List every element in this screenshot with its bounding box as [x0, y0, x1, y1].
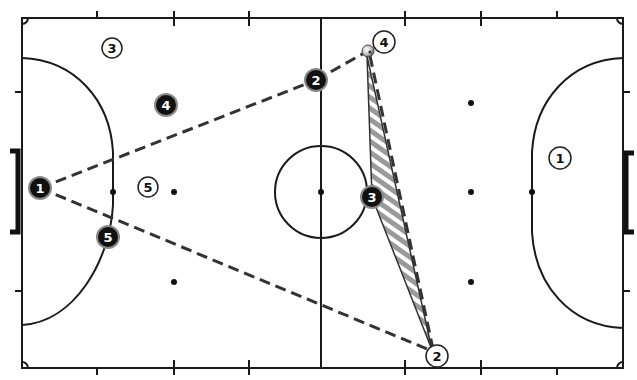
right-penalty-area [532, 58, 623, 328]
left-goal [10, 151, 18, 232]
player-light-3: 3 [102, 38, 122, 58]
player-light-1: 1 [549, 147, 571, 169]
svg-text:3: 3 [107, 41, 116, 56]
svg-text:2: 2 [432, 349, 441, 364]
player-dark-1: 1 [28, 176, 52, 200]
player-light-2: 2 [426, 345, 448, 367]
svg-text:1: 1 [35, 181, 44, 196]
ball-icon [362, 45, 374, 57]
player-dark-4: 4 [154, 93, 178, 117]
svg-text:3: 3 [367, 190, 376, 205]
svg-text:4: 4 [379, 35, 388, 50]
player-light-4: 4 [373, 31, 395, 53]
svg-text:4: 4 [161, 98, 170, 113]
player-dark-5: 5 [96, 225, 120, 249]
futsal-court-diagram: 3 5 4 1 2 1 5 4 2 3 [0, 0, 637, 380]
svg-text:2: 2 [311, 73, 320, 88]
court-spots [110, 100, 535, 285]
right-goal [626, 153, 634, 232]
player-dark-2: 2 [304, 68, 328, 92]
player-dark-3: 3 [360, 185, 384, 209]
svg-text:5: 5 [103, 230, 112, 245]
svg-text:1: 1 [555, 151, 564, 166]
player-light-5: 5 [138, 177, 158, 197]
svg-text:5: 5 [143, 180, 152, 195]
